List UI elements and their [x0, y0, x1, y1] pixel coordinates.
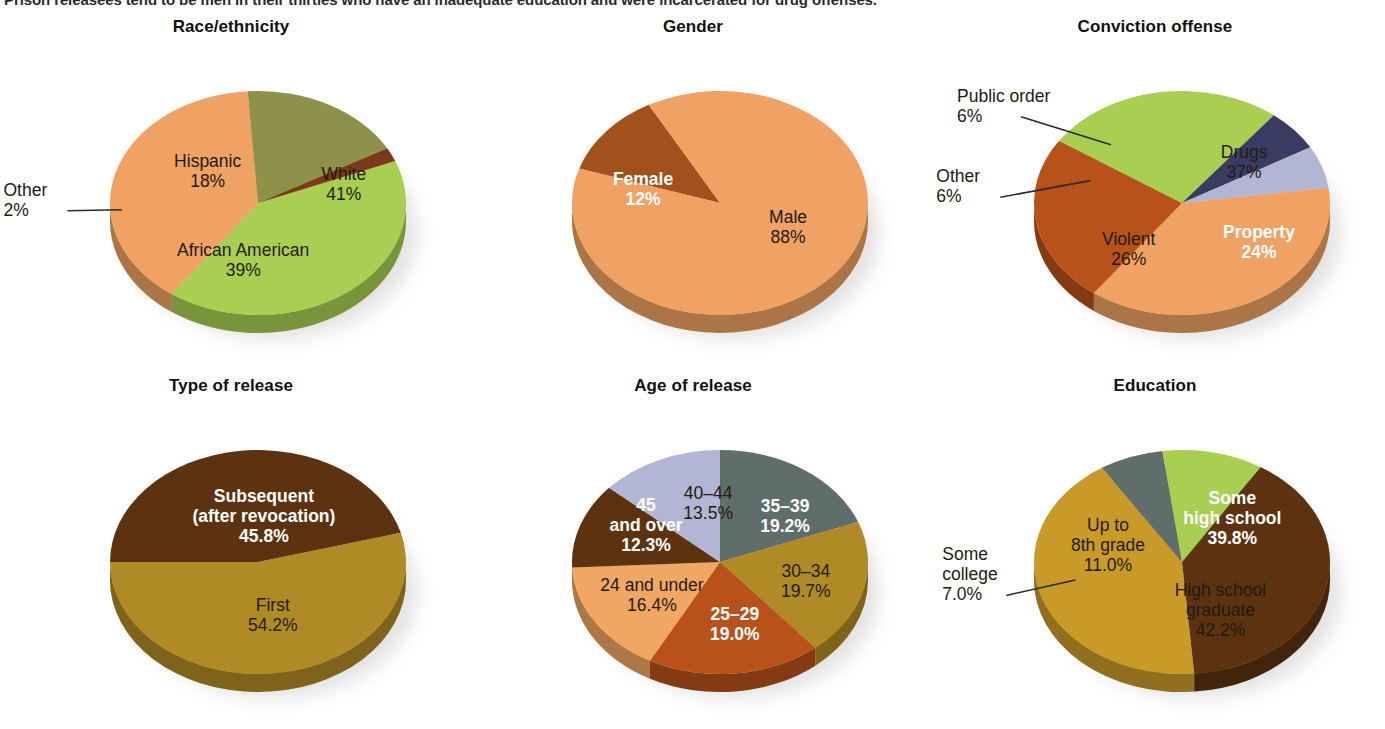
slice-label-35–39: 35–3919.2% — [760, 496, 810, 536]
pie-svg-education: Somehigh school39.8%High schoolgraduate4… — [924, 370, 1385, 729]
pie-top-faces — [1034, 91, 1330, 315]
pie-svg-race-ethnicity: White41%African American39%Hispanic18%Ot… — [0, 11, 462, 370]
pie-chart-education: EducationSomehigh school39.8%High school… — [924, 370, 1385, 729]
pie-chart-grid: Race/ethnicityWhite41%African American39… — [0, 11, 1385, 729]
callout-label-some-college: Somecollege7.0% — [942, 544, 997, 604]
callout-label-public-order: Public order6% — [957, 85, 1051, 125]
pie-top-faces — [110, 450, 406, 674]
pie-chart-type-of-release: Type of releaseSubsequent(after revocati… — [0, 370, 462, 729]
pie-chart-age-of-release: Age of release35–3919.2%30–3419.7%25–291… — [462, 370, 924, 729]
figure-caption-strip: Prison releasees tend to be men in their… — [0, 0, 1385, 11]
slice-label-25–29: 25–2919.0% — [710, 603, 760, 643]
pie-svg-gender: Female12%Male88% — [462, 11, 924, 370]
figure-caption: Prison releasees tend to be men in their… — [4, 0, 877, 8]
callout-label-other: Other6% — [936, 166, 980, 206]
pie-chart-conviction-offense: Conviction offenseDrugs37%Property24%Vio… — [924, 11, 1385, 370]
pie-top-faces — [1034, 450, 1330, 674]
slice-label-40–44: 40–4413.5% — [683, 482, 733, 522]
slice-label-male: Male88% — [769, 206, 807, 246]
slice-label-30–34: 30–3419.7% — [781, 561, 831, 601]
pie-svg-conviction-offense: Drugs37%Property24%Violent26%Other6%Publ… — [924, 11, 1385, 370]
slice-label-drugs: Drugs37% — [1221, 141, 1268, 181]
pie-top-faces — [110, 91, 406, 315]
pie-chart-race-ethnicity: Race/ethnicityWhite41%African American39… — [0, 11, 462, 370]
slice-label-white: White41% — [321, 164, 366, 204]
pie-top-faces — [572, 91, 868, 315]
callout-leader-line — [67, 210, 121, 211]
pie-svg-age-of-release: 35–3919.2%30–3419.7%25–2919.0%24 and und… — [462, 370, 924, 729]
callout-label-other: Other2% — [3, 179, 47, 219]
pie-svg-type-of-release: Subsequent(after revocation)45.8%First54… — [0, 370, 462, 729]
pie-chart-gender: GenderFemale12%Male88% — [462, 11, 924, 370]
